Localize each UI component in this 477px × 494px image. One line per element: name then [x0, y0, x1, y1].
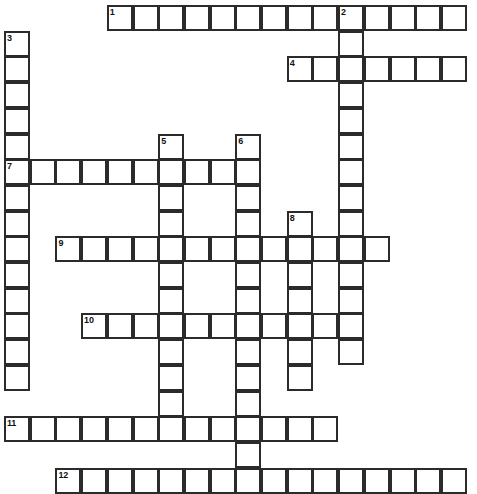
crossword-cell[interactable]	[235, 159, 261, 185]
crossword-cell[interactable]	[338, 288, 364, 314]
crossword-cell[interactable]: 3	[4, 31, 30, 57]
crossword-cell[interactable]	[158, 365, 184, 391]
crossword-cell[interactable]	[338, 108, 364, 134]
crossword-cell[interactable]	[158, 236, 184, 262]
crossword-cell[interactable]	[184, 313, 210, 339]
crossword-cell[interactable]	[184, 236, 210, 262]
crossword-cell[interactable]	[235, 313, 261, 339]
crossword-cell[interactable]	[287, 236, 313, 262]
crossword-cell[interactable]	[261, 416, 287, 442]
crossword-cell[interactable]	[312, 468, 338, 494]
crossword-cell[interactable]	[4, 236, 30, 262]
crossword-cell[interactable]	[364, 56, 390, 82]
crossword-cell[interactable]	[287, 5, 313, 31]
crossword-cell[interactable]	[261, 5, 287, 31]
crossword-cell[interactable]	[364, 5, 390, 31]
crossword-cell[interactable]	[4, 82, 30, 108]
crossword-cell[interactable]	[210, 468, 236, 494]
crossword-cell[interactable]	[235, 339, 261, 365]
crossword-cell[interactable]	[81, 236, 107, 262]
crossword-cell[interactable]	[390, 56, 416, 82]
crossword-cell[interactable]	[390, 468, 416, 494]
crossword-cell[interactable]	[364, 468, 390, 494]
crossword-cell[interactable]	[4, 365, 30, 391]
crossword-cell[interactable]: 12	[55, 468, 81, 494]
crossword-cell[interactable]	[30, 159, 56, 185]
crossword-cell[interactable]	[184, 468, 210, 494]
crossword-cell[interactable]	[158, 211, 184, 237]
crossword-cell[interactable]	[338, 236, 364, 262]
crossword-cell[interactable]	[133, 313, 159, 339]
crossword-cell[interactable]	[441, 5, 467, 31]
crossword-cell[interactable]	[390, 5, 416, 31]
crossword-cell[interactable]	[107, 159, 133, 185]
crossword-cell[interactable]	[261, 468, 287, 494]
crossword-cell[interactable]	[81, 159, 107, 185]
crossword-cell[interactable]	[287, 365, 313, 391]
crossword-cell[interactable]	[133, 236, 159, 262]
crossword-cell[interactable]	[210, 416, 236, 442]
crossword-cell[interactable]: 7	[4, 159, 30, 185]
crossword-cell[interactable]	[415, 468, 441, 494]
crossword-cell[interactable]	[338, 56, 364, 82]
crossword-cell[interactable]	[158, 288, 184, 314]
crossword-cell[interactable]	[4, 108, 30, 134]
crossword-cell[interactable]: 11	[4, 416, 30, 442]
crossword-cell[interactable]	[107, 468, 133, 494]
crossword-cell[interactable]	[158, 391, 184, 417]
crossword-cell[interactable]	[338, 211, 364, 237]
crossword-cell[interactable]: 5	[158, 134, 184, 160]
crossword-cell[interactable]	[133, 468, 159, 494]
crossword-cell[interactable]	[81, 416, 107, 442]
crossword-cell[interactable]	[287, 468, 313, 494]
crossword-cell[interactable]	[235, 391, 261, 417]
crossword-cell[interactable]	[235, 185, 261, 211]
crossword-cell[interactable]	[158, 416, 184, 442]
crossword-cell[interactable]	[55, 159, 81, 185]
crossword-cell[interactable]	[107, 236, 133, 262]
crossword-cell[interactable]	[4, 211, 30, 237]
crossword-cell[interactable]	[287, 262, 313, 288]
crossword-cell[interactable]	[287, 416, 313, 442]
crossword-cell[interactable]	[287, 339, 313, 365]
crossword-cell[interactable]	[415, 5, 441, 31]
crossword-cell[interactable]	[184, 159, 210, 185]
crossword-cell[interactable]	[338, 134, 364, 160]
crossword-cell[interactable]	[81, 468, 107, 494]
crossword-cell[interactable]	[107, 416, 133, 442]
crossword-cell[interactable]	[312, 313, 338, 339]
crossword-cell[interactable]: 2	[338, 5, 364, 31]
crossword-cell[interactable]	[158, 5, 184, 31]
crossword-cell[interactable]	[235, 5, 261, 31]
crossword-cell[interactable]	[55, 416, 81, 442]
crossword-cell[interactable]	[338, 31, 364, 57]
crossword-cell[interactable]	[338, 313, 364, 339]
crossword-cell[interactable]	[235, 416, 261, 442]
crossword-cell[interactable]	[4, 288, 30, 314]
crossword-cell[interactable]	[338, 82, 364, 108]
crossword-cell[interactable]	[235, 288, 261, 314]
crossword-cell[interactable]	[4, 185, 30, 211]
crossword-cell[interactable]	[312, 5, 338, 31]
crossword-cell[interactable]	[235, 365, 261, 391]
crossword-cell[interactable]	[158, 159, 184, 185]
crossword-cell[interactable]	[4, 339, 30, 365]
crossword-cell[interactable]	[158, 185, 184, 211]
crossword-cell[interactable]	[338, 339, 364, 365]
crossword-cell[interactable]	[4, 262, 30, 288]
crossword-cell[interactable]	[158, 262, 184, 288]
crossword-cell[interactable]	[133, 416, 159, 442]
crossword-cell[interactable]	[4, 313, 30, 339]
crossword-cell[interactable]	[184, 5, 210, 31]
crossword-cell[interactable]	[158, 313, 184, 339]
crossword-cell[interactable]	[235, 262, 261, 288]
crossword-cell[interactable]: 1	[107, 5, 133, 31]
crossword-cell[interactable]	[338, 262, 364, 288]
crossword-cell[interactable]	[210, 236, 236, 262]
crossword-cell[interactable]: 10	[81, 313, 107, 339]
crossword-cell[interactable]	[235, 468, 261, 494]
crossword-cell[interactable]: 8	[287, 211, 313, 237]
crossword-cell[interactable]	[4, 56, 30, 82]
crossword-cell[interactable]	[210, 5, 236, 31]
crossword-cell[interactable]	[133, 159, 159, 185]
